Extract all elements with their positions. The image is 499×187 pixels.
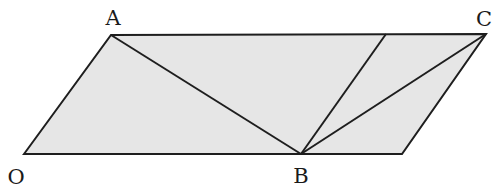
geometry-diagram: A C O B xyxy=(0,0,499,187)
label-a: A xyxy=(104,6,121,30)
label-b: B xyxy=(293,164,308,187)
label-o: O xyxy=(7,165,24,187)
parallelogram-fill xyxy=(24,34,486,154)
label-c: C xyxy=(476,7,492,31)
